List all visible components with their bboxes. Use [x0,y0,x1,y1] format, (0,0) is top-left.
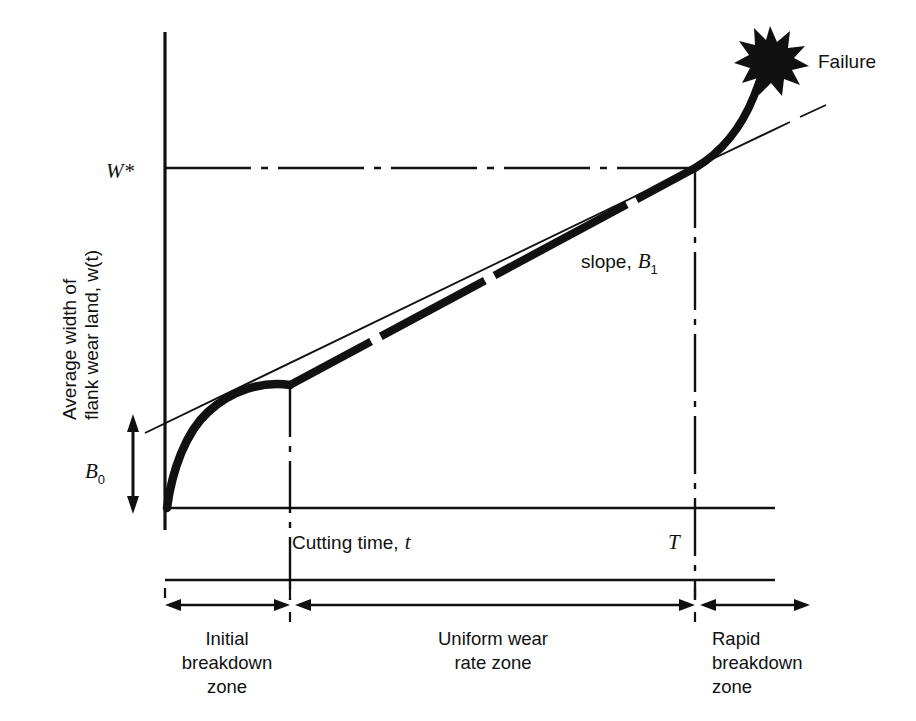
wear-curve-initial-breakdown [167,384,290,508]
slope-label-var: B [638,249,651,273]
x-axis-label-var: t [405,530,412,554]
tool-life-label-T: T [668,530,681,554]
x-axis-label-text: Cutting time, [292,532,399,553]
wear-curve-uniform-wear [290,168,695,385]
slope-label: slope,B1 [581,249,658,277]
y-axis-label-line2: flank wear land, w(t) [81,250,102,420]
zone-label-initial-line3: zone [207,676,247,697]
zone-arrow-uniform-head-left [295,599,311,611]
slope-label-text: slope, [581,251,632,272]
slope-label-subscript: 1 [651,262,658,277]
failure-label: Failure [818,51,876,72]
zone-arrow-rapid-head-right [794,599,810,611]
zone-arrow-rapid-head-left [700,599,716,611]
b0-arrowhead-down [127,496,139,514]
intercept-label-b0-subscript: 0 [98,472,105,487]
zone-label-initial-line2: breakdown [182,652,273,673]
zone-label-uniform-line1: Uniform wear [438,628,548,649]
starburst-icon [734,26,809,96]
zone-label-rapid-line1: Rapid [712,628,760,649]
zone-label-uniform-line2: rate zone [454,652,531,673]
b0-arrowhead-up [127,414,139,432]
zone-label-initial-line1: Initial [205,628,248,649]
slope-extrapolation-line-dash-tip [800,105,826,117]
tool-wear-diagram: Average width of flank wear land, w(t) W… [0,0,916,721]
zone-arrow-initial-head-left [165,599,181,611]
zone-arrow-uniform-head-right [679,599,695,611]
intercept-label-b0-var: B [85,459,98,483]
zone-arrow-initial-head-right [274,599,290,611]
threshold-label-w-star: W* [106,159,134,183]
zone-label-rapid-line2: breakdown [712,652,803,673]
intercept-label-b0: B0 [85,459,105,487]
y-axis-label-line1: Average width of [59,278,80,420]
zone-label-rapid-line3: zone [712,676,752,697]
x-axis-label: Cutting time,t [292,530,412,554]
